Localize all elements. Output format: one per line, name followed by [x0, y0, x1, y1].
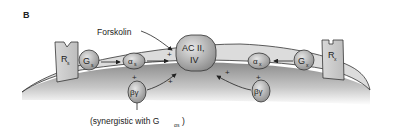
svg-text:αs: αs — [174, 122, 180, 128]
forskolin-label: Forskolin — [97, 27, 132, 37]
beta-gamma-right: βγ — [252, 80, 270, 102]
svg-text:βγ: βγ — [254, 87, 263, 96]
svg-text:(synergistic with G: (synergistic with G — [90, 116, 159, 126]
panel-label: B — [23, 10, 30, 20]
beta-gamma-left: βγ — [128, 81, 146, 103]
svg-text:G: G — [298, 56, 305, 66]
svg-text:): ) — [182, 116, 185, 126]
svg-text:α: α — [253, 57, 258, 66]
plus-bg-right: + — [225, 68, 230, 77]
g-protein-gs: G s — [79, 50, 99, 70]
synergy-annotation: (synergistic with G αs ) — [90, 116, 185, 128]
svg-text:G: G — [83, 56, 90, 66]
receptor-rs: R s — [55, 42, 78, 82]
forskolin-arrow — [141, 31, 172, 50]
plus-forskolin: + — [167, 50, 172, 59]
alpha-s-subunit: α s — [123, 53, 145, 69]
svg-text:IV: IV — [190, 55, 199, 65]
svg-text:βγ: βγ — [130, 88, 139, 97]
svg-text:AC II,: AC II, — [182, 43, 205, 53]
receptor-rx: R x — [322, 40, 344, 80]
plus-bg-left: + — [168, 77, 173, 86]
adenylyl-cyclase-diagram: B Forskolin R s G s α s + + βγ + AC II, … — [0, 0, 393, 136]
svg-text:α: α — [128, 57, 133, 66]
adenylyl-cyclase-ac2-ac4: AC II, IV — [176, 35, 216, 71]
alpha-x-subunit: α x — [248, 53, 270, 69]
g-protein-gx: G x — [294, 50, 314, 70]
